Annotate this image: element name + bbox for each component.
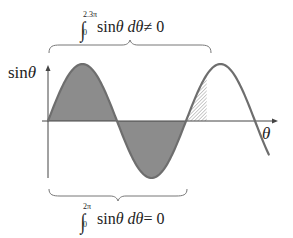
integrand-func: sin [97,210,116,227]
integrand-func: sin [97,18,116,35]
y-axis-label: sinθ [8,64,36,81]
integrand: sinθ dθ= 0 [97,210,164,227]
integrand-differential: dθ [128,210,144,227]
x-axis-label: θ [262,125,270,142]
integral-relation: ≠ 0 [143,18,164,35]
x-axis-arrow-icon [272,119,278,124]
upper-limit: 2π [83,203,91,211]
integral-relation: = 0 [143,210,164,227]
y-axis-label-func: sin [8,63,28,82]
y-axis-label-var: θ [28,63,36,82]
top-brace [49,40,211,53]
upper-limit: 2.3π [83,11,97,19]
lower-limit: 0 [83,221,87,229]
integrand-var: θ [116,18,124,35]
lower-limit: 0 [83,29,87,37]
bottom-brace [49,189,187,201]
integrand: sinθ dθ≠ 0 [97,18,164,35]
bottom-integral-label: ∫2π0sinθ dθ= 0 [80,204,164,233]
integrand-differential: dθ [128,18,144,35]
integral-limits: 2.3π0 [83,12,97,38]
y-axis-arrow-icon [46,65,51,71]
integral-limits: 2π0 [83,204,97,230]
integrand-var: θ [116,210,124,227]
top-integral-label: ∫2.3π0sinθ dθ≠ 0 [80,12,164,41]
